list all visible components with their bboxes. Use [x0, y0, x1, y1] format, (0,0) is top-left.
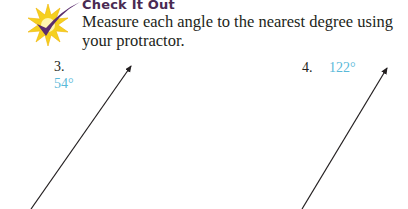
problem-4-angle-ray [302, 68, 387, 209]
problem-3-angle-ray [31, 66, 131, 209]
